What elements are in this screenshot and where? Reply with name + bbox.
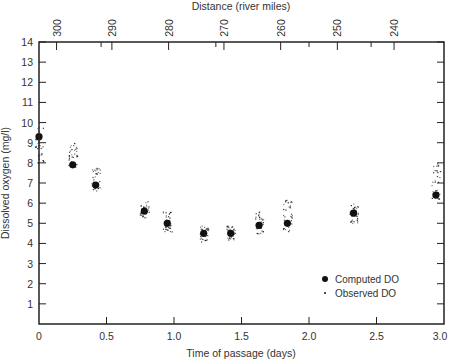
- dissolved-oxygen-chart: 1234567891011121314 00.51.01.52.02.53.0 …: [0, 0, 456, 364]
- computed-do-point: [200, 230, 207, 237]
- y-tick-label: 4: [27, 237, 33, 249]
- computed-do-point: [227, 230, 234, 237]
- y-tick-label: 1: [27, 298, 33, 310]
- computed-do-point: [432, 191, 439, 198]
- top-tick-label: 270: [218, 19, 230, 37]
- x-axis-label: Time of passage (days): [186, 347, 295, 359]
- legend-computed-marker: [322, 276, 328, 282]
- legend-computed-label: Computed DO: [335, 274, 399, 285]
- y-tick-label: 3: [27, 258, 33, 270]
- y-tick-label: 12: [21, 76, 33, 88]
- legend-observed-label: Observed DO: [335, 288, 396, 299]
- y-tick-label: 8: [27, 157, 33, 169]
- top-tick-label: 250: [331, 19, 343, 37]
- y-tick-label: 2: [27, 278, 33, 290]
- top-tick-label: 300: [51, 19, 63, 37]
- computed-do-point: [92, 181, 99, 188]
- legend-observed-marker: [324, 292, 326, 294]
- x-tick-label: 1.5: [234, 330, 249, 342]
- x-tick-label: 1.0: [167, 330, 182, 342]
- x-tick-label: 3.0: [433, 330, 448, 342]
- y-tick-label: 5: [27, 217, 33, 229]
- x-tick-label: 0.5: [99, 330, 114, 342]
- y-tick-label: 6: [27, 197, 33, 209]
- y-tick-label: 9: [27, 137, 33, 149]
- y-tick-label: 7: [27, 177, 33, 189]
- top-tick-label: 260: [275, 19, 287, 37]
- top-tick-label: 240: [388, 19, 400, 37]
- x-tick-label: 2.0: [302, 330, 317, 342]
- computed-do-point: [255, 222, 262, 229]
- top-tick-label: 290: [106, 19, 118, 37]
- top-tick-label: 280: [163, 19, 175, 37]
- computed-do-point: [69, 161, 76, 168]
- top-axis-label: Distance (river miles): [192, 0, 291, 12]
- y-axis-ticks: 1234567891011121314: [21, 36, 444, 310]
- y-axis-label: Dissolved oxygen (mg/l): [0, 127, 11, 239]
- computed-do-point: [141, 208, 148, 215]
- y-tick-label: 11: [22, 96, 33, 108]
- computed-do-point: [164, 220, 171, 227]
- computed-do-point: [350, 210, 357, 217]
- computed-points: [35, 133, 439, 237]
- x-axis-ticks: 00.51.01.52.02.53.0: [36, 317, 447, 342]
- x-tick-label: 0: [36, 330, 42, 342]
- computed-do-point: [284, 220, 291, 227]
- top-axis-ticks: 300290280270260250240: [51, 19, 401, 50]
- legend: Computed DO Observed DO: [322, 274, 399, 299]
- y-tick-label: 10: [21, 117, 33, 129]
- x-tick-label: 2.5: [369, 330, 384, 342]
- y-tick-label: 13: [21, 56, 33, 68]
- y-tick-label: 14: [21, 36, 33, 48]
